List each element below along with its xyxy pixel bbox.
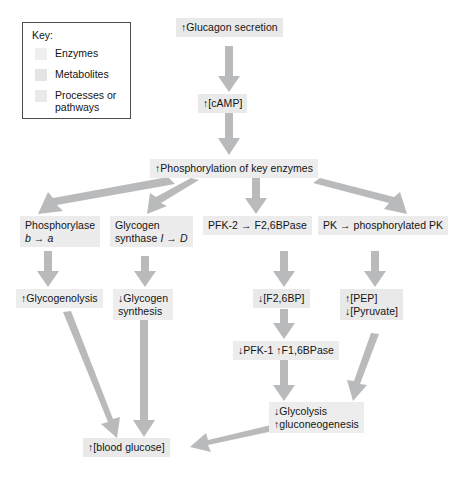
node-pk: PK → phosphorylated PK xyxy=(318,216,448,235)
node-glycogen-synthesis: ↓Glycogen synthesis xyxy=(113,289,173,320)
arrow-pfk2-to-f26bp xyxy=(273,251,295,287)
node-pk-label: PK → phosphorylated PK xyxy=(323,219,443,231)
key-legend: Key: Enzymes Metabolites Processes or pa… xyxy=(22,22,131,119)
node-phosphorylase-line2: b → a xyxy=(25,232,95,245)
node-pfk1: ↓PFK-1 ↑F1,6BPase xyxy=(233,341,339,360)
node-glycogenolysis: ↑Glycogenolysis xyxy=(16,289,103,308)
key-label-metabolites: Metabolites xyxy=(55,68,109,80)
node-pep-pyruvate: ↑[PEP] ↓[Pyruvate] xyxy=(340,289,403,320)
node-camp: ↑[cAMP] xyxy=(198,94,247,113)
node-glycogen-synthesis-line1: ↓Glycogen xyxy=(118,292,168,305)
synthase-word: synthase xyxy=(115,232,160,244)
node-glycogen-synthase-line2: synthase I → D xyxy=(115,232,188,245)
node-gluconeogenesis-line2: ↑gluconeogenesis xyxy=(274,418,359,431)
node-pep-label: ↑[PEP] xyxy=(345,292,398,305)
node-glycogen-synthesis-line2: synthesis xyxy=(118,305,168,318)
node-phosphorylase-line1: Phosphorylase xyxy=(25,219,95,232)
node-glucagon-secretion: ↑Glucagon secretion xyxy=(176,18,283,37)
key-row-enzymes: Enzymes xyxy=(35,47,98,60)
node-pyruvate-label: ↓[Pyruvate] xyxy=(345,305,398,318)
node-glycolysis-gluconeogenesis: ↓Glycolysis ↑gluconeogenesis xyxy=(269,402,364,433)
arrow-glycogen-synthesis-to-blood-glucose xyxy=(133,317,155,437)
arrow-phos-to-pk xyxy=(313,178,407,214)
arrow-glucagon-to-camp xyxy=(218,46,240,92)
node-pfk2-label: PFK-2 → F2,6BPase xyxy=(208,219,307,231)
node-pfk2: PFK-2 → F2,6BPase xyxy=(203,216,312,235)
arrow-phos-to-pfk2 xyxy=(245,178,267,214)
node-glycogen-synthase-line1: Glycogen xyxy=(115,219,188,232)
node-phosphorylation-label: ↑Phosphorylation of key enzymes xyxy=(155,162,313,174)
arrow-pfk1-to-glycolysis xyxy=(273,360,295,401)
phosphorylase-arrow: → xyxy=(31,232,48,244)
key-swatch-metabolites xyxy=(35,69,47,81)
key-row-metabolites: Metabolites xyxy=(35,68,109,81)
node-glycogenolysis-label: ↑Glycogenolysis xyxy=(21,292,98,304)
arrow-pep-to-glycolysis xyxy=(347,333,379,401)
arrow-pk-to-pep xyxy=(364,251,386,287)
key-label-processes-line1: Processes xyxy=(55,89,104,101)
key-label-enzymes: Enzymes xyxy=(55,47,98,59)
node-pfk1-label: ↓PFK-1 ↑F1,6BPase xyxy=(238,344,334,356)
key-row-processes: Processes or pathways xyxy=(35,89,130,113)
arrow-f26bp-to-pfk1 xyxy=(273,309,295,339)
node-f26bp-label: ↓[F2,6BP] xyxy=(258,292,305,304)
arrow-glycogenolysis-to-blood-glucose xyxy=(63,311,120,438)
node-blood-glucose-label: ↑[blood glucose] xyxy=(88,441,165,453)
diagram-canvas: .arw{fill:#b9babb;} xyxy=(0,0,458,504)
node-glucagon-secretion-label: ↑Glucagon secretion xyxy=(181,21,278,33)
key-title: Key: xyxy=(32,29,53,41)
arrow-phosphorylase-to-glycogenolysis xyxy=(37,251,59,287)
synthase-arrow: → xyxy=(163,232,180,244)
arrow-synthase-to-glycogen-synthesis xyxy=(134,256,156,287)
node-phosphorylation-key-enzymes: ↑Phosphorylation of key enzymes xyxy=(150,159,318,178)
node-blood-glucose: ↑[blood glucose] xyxy=(83,438,170,457)
node-phosphorylase: Phosphorylase b → a xyxy=(20,216,100,247)
phosphorylase-state-a: a xyxy=(47,232,53,244)
synthase-state-D: D xyxy=(180,232,188,244)
node-camp-label: ↑[cAMP] xyxy=(203,97,242,109)
key-swatch-processes xyxy=(35,90,47,102)
arrow-camp-to-phosphorylation xyxy=(218,112,240,155)
key-label-processes: Processes or pathways xyxy=(55,89,130,113)
node-glycolysis-line1: ↓Glycolysis xyxy=(274,405,359,418)
node-f26bp: ↓[F2,6BP] xyxy=(253,289,310,308)
node-glycogen-synthase: Glycogen synthase I → D xyxy=(110,216,193,247)
key-swatch-enzymes xyxy=(35,48,47,60)
